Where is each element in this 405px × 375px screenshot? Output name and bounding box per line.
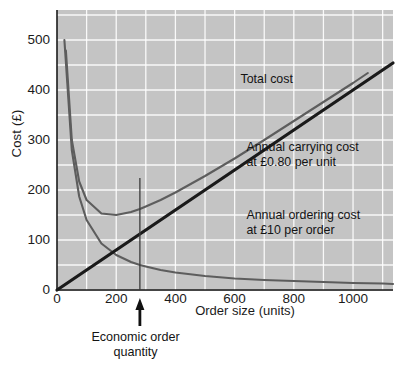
x-tick-label: 600 xyxy=(205,291,265,306)
x-tick-label: 400 xyxy=(145,291,205,306)
x-tick-label: 200 xyxy=(86,291,146,306)
y-tick-label: 100 xyxy=(8,232,50,247)
eoq-cost-chart: Cost (£) Order size (units) 010020030040… xyxy=(0,0,405,375)
ordering-cost-line-2: at £10 per order xyxy=(246,223,334,237)
chart-canvas xyxy=(0,0,405,375)
y-tick-label: 400 xyxy=(8,82,50,97)
x-tick-label: 1000 xyxy=(323,291,383,306)
y-tick-label: 500 xyxy=(8,32,50,47)
eoq-line-2: quantity xyxy=(113,345,157,359)
x-tick-label: 0 xyxy=(27,291,87,306)
x-tick-label: 800 xyxy=(264,291,324,306)
annotation-carrying-cost: Annual carrying costat £0.80 per unit xyxy=(246,140,358,170)
ordering-cost-line-1: Annual ordering cost xyxy=(246,208,360,222)
eoq-line-1: Economic order xyxy=(91,330,179,344)
annotation-total-cost: Total cost xyxy=(241,72,293,87)
annotation-ordering-cost: Annual ordering costat £10 per order xyxy=(246,208,360,238)
y-tick-label: 300 xyxy=(8,132,50,147)
carrying-cost-line-1: Annual carrying cost xyxy=(246,140,358,154)
annotation-economic-order-quantity: Economic orderquantity xyxy=(48,330,223,360)
y-tick-label: 200 xyxy=(8,182,50,197)
carrying-cost-line-2: at £0.80 per unit xyxy=(246,155,336,169)
